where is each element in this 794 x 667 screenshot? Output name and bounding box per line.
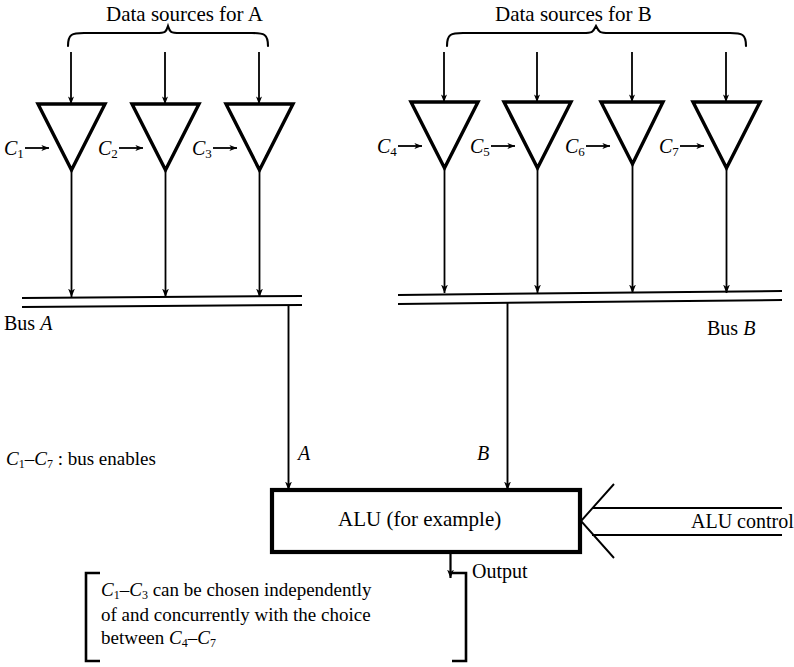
buffer-column-c6 (586, 52, 663, 293)
note-l3-c1: C (169, 627, 182, 648)
diagram-canvas: Data sources for A Data sources for B C1… (0, 0, 794, 667)
enable-label-c7: C7 (659, 136, 679, 158)
diagram-artwork (0, 0, 794, 667)
enable-label-c1-sub: 1 (17, 146, 24, 161)
enable-label-c4: C4 (377, 136, 397, 158)
bus-enable-legend: C1–C7 : bus enables (6, 449, 156, 470)
bus-a-line (22, 296, 302, 307)
enable-label-c7-sub: 7 (672, 144, 679, 159)
enable-label-c4-sub: 4 (390, 144, 397, 159)
group-a-title: Data sources for A (106, 4, 263, 25)
alu-label: ALU (for example) (338, 509, 501, 530)
operand-b-label: B (477, 443, 489, 463)
bus-b-label: Bus B (707, 318, 755, 338)
enable-label-c2-text: C (98, 137, 111, 159)
brace-group-a (68, 26, 268, 46)
enable-label-c3-text: C (192, 137, 205, 159)
note-l3-sub2: 7 (210, 636, 216, 650)
enable-label-c6-sub: 6 (578, 144, 585, 159)
note-line-3: between C4–C7 (101, 626, 451, 651)
enable-label-c2: C2 (98, 138, 118, 160)
note-l1-rest: can be chosen independently (148, 579, 372, 600)
enable-label-c6: C6 (565, 136, 585, 158)
enable-label-c5: C5 (470, 136, 490, 158)
enable-label-c1-text: C (4, 137, 17, 159)
enable-label-c4-text: C (377, 135, 390, 157)
note-l3-pre: between (101, 627, 169, 648)
operand-a-label: A (298, 443, 310, 463)
enable-label-c1: C1 (4, 138, 24, 160)
group-b-title: Data sources for B (495, 4, 652, 25)
alu-control-label: ALU control (691, 511, 794, 531)
enable-label-c2-sub: 2 (111, 146, 118, 161)
buffer-column-c2 (119, 52, 199, 297)
buffer-column-c7 (680, 52, 760, 293)
legend-c-first: C (6, 448, 19, 469)
buffer-column-c4 (398, 52, 478, 293)
note-l1-c2: C (129, 579, 142, 600)
enable-label-c3: C3 (192, 138, 212, 160)
bus-a-label: Bus A (4, 313, 52, 333)
alu-output-label: Output (472, 561, 528, 581)
note-l3-c2: C (197, 627, 210, 648)
enable-label-c5-text: C (470, 135, 483, 157)
enable-label-c7-text: C (659, 135, 672, 157)
note-l1-dash: – (120, 579, 130, 600)
note-l1-c1: C (101, 579, 114, 600)
note-text: C1–C3 can be chosen independently of and… (101, 578, 451, 650)
enable-label-c5-sub: 5 (483, 144, 490, 159)
note-line-2: of and concurrently with the choice (101, 603, 451, 626)
bus-b-label-name: B (743, 317, 755, 339)
bus-a-label-name: A (40, 312, 52, 334)
bus-b-line (398, 291, 782, 304)
bus-b-label-prefix: Bus (707, 317, 743, 339)
legend-dash: – (25, 448, 35, 469)
buffer-column-c3 (213, 52, 293, 297)
buffer-column-c1 (25, 52, 105, 297)
note-line-1: C1–C3 can be chosen independently (101, 578, 451, 603)
legend-description: : bus enables (53, 448, 156, 469)
bus-a-label-prefix: Bus (4, 312, 40, 334)
note-l3-dash: – (188, 627, 198, 648)
brace-group-b (447, 26, 746, 46)
legend-c-last: C (34, 448, 47, 469)
enable-label-c6-text: C (565, 135, 578, 157)
enable-label-c3-sub: 3 (205, 146, 212, 161)
buffer-column-c5 (491, 52, 571, 293)
